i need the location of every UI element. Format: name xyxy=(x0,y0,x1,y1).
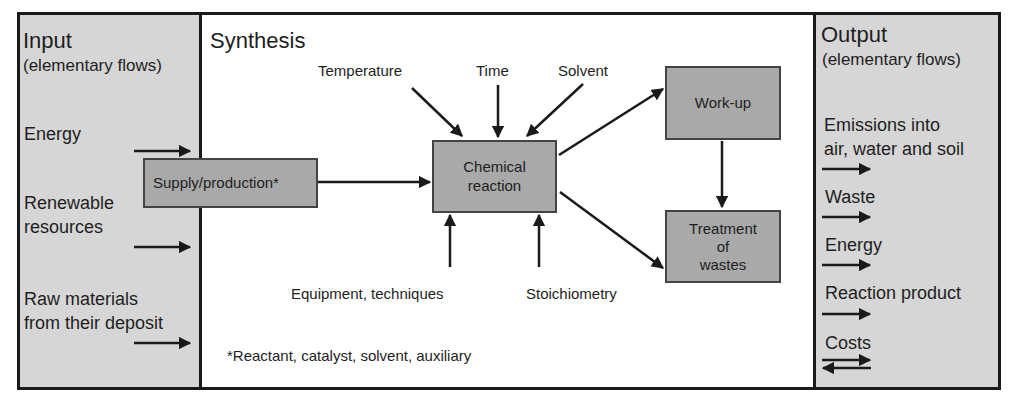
arrow-solvent xyxy=(527,84,583,136)
arrow-temperature xyxy=(412,88,462,136)
flow-arrows xyxy=(0,0,1014,403)
arrow-to-workup xyxy=(559,89,663,155)
arrow-to-treatment xyxy=(560,192,663,268)
